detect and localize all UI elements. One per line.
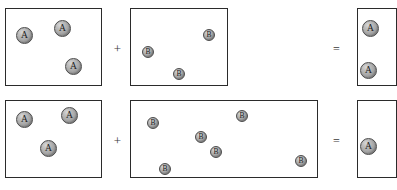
- particle-label: A: [365, 141, 372, 151]
- particle-a: A: [360, 62, 377, 79]
- particle-label: A: [45, 143, 52, 153]
- particle-b: B: [203, 29, 215, 41]
- particle-b: B: [210, 146, 222, 158]
- equals-operator: =: [331, 43, 342, 55]
- particle-label: B: [150, 119, 155, 127]
- particle-label: B: [239, 112, 244, 120]
- particle-label: A: [66, 110, 73, 120]
- particle-a: A: [61, 107, 78, 124]
- equals-operator: =: [331, 135, 342, 147]
- particle-label: B: [176, 70, 181, 78]
- particle-label: B: [206, 31, 211, 39]
- particle-label: A: [21, 30, 28, 40]
- particle-b: B: [173, 68, 185, 80]
- particle-b: B: [236, 110, 248, 122]
- particle-a: A: [40, 140, 57, 157]
- particle-label: B: [145, 48, 150, 56]
- particle-b: B: [295, 155, 307, 167]
- particle-b: B: [142, 46, 154, 58]
- particle-b: B: [195, 131, 207, 143]
- particle-label: B: [198, 133, 203, 141]
- particle-b: B: [147, 117, 159, 129]
- particle-label: B: [162, 165, 167, 173]
- particle-label: A: [365, 65, 372, 75]
- particle-a: A: [65, 58, 82, 75]
- particle-a: A: [16, 111, 33, 128]
- reactant-b-box-bottom: [130, 100, 318, 178]
- particle-a: A: [54, 20, 71, 37]
- particle-label: B: [298, 157, 303, 165]
- particle-b: B: [159, 163, 171, 175]
- plus-operator: +: [112, 42, 123, 55]
- particle-label: A: [70, 61, 77, 70]
- particle-a: A: [360, 138, 377, 155]
- particle-a: A: [362, 20, 379, 37]
- particle-label: A: [59, 23, 66, 33]
- plus-operator: +: [112, 134, 123, 147]
- particle-label: A: [21, 114, 28, 124]
- particle-a: A: [16, 27, 33, 44]
- reactant-a-box-top: [5, 8, 102, 86]
- particle-label: B: [213, 148, 218, 156]
- particle-label: A: [367, 23, 374, 33]
